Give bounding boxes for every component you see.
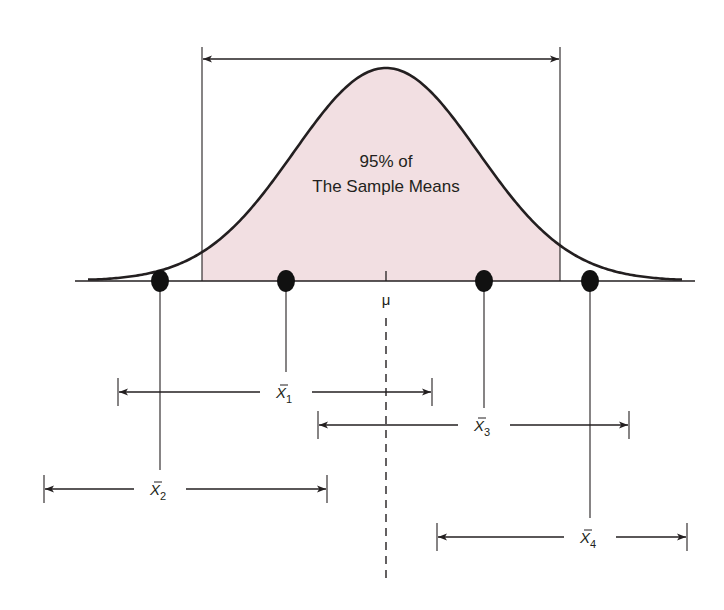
shaded-region-label-line1: 95% of	[360, 152, 413, 171]
sample-mean-label: X3	[473, 417, 490, 438]
sample-mean-subscript: 3	[484, 426, 490, 438]
sample-mean-label: X4	[579, 529, 596, 550]
sampling-distribution-diagram: 95% of The Sample Means μ X1X2X3X4	[0, 0, 724, 610]
population-mean-label: μ	[382, 291, 391, 308]
diagram-canvas: 95% of The Sample Means μ X1X2X3X4	[0, 0, 724, 610]
sample-4: X4	[437, 270, 687, 551]
sample-mean-point	[277, 270, 295, 292]
sample-mean-label: X1	[275, 384, 292, 405]
sample-mean-label: X2	[149, 481, 166, 502]
sample-mean-subscript: 1	[286, 393, 292, 405]
sample-means-group: X1X2X3X4	[44, 270, 687, 551]
sample-mean-subscript: 4	[590, 538, 596, 550]
sample-mean-point	[581, 270, 599, 292]
sample-3: X3	[318, 270, 629, 439]
shaded-95-percent-region	[202, 68, 560, 281]
sample-mean-point	[475, 270, 493, 292]
sample-mean-point	[151, 270, 169, 292]
sample-mean-subscript: 2	[160, 490, 166, 502]
shaded-region-label-line2: The Sample Means	[312, 177, 459, 196]
